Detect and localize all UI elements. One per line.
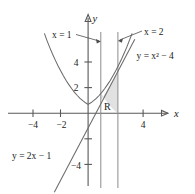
y-tick-label-4: 4: [74, 58, 79, 68]
x-tick-label--2: −2: [56, 120, 66, 130]
vline-right-label: x = 2: [144, 27, 164, 37]
region-label-R: R: [104, 101, 111, 112]
line-label: y = 2x − 1: [12, 151, 51, 161]
parabola-label: y = x² − 4: [137, 51, 175, 61]
leader-arrowhead-x1: [96, 39, 101, 43]
figure-canvas: x y −4 −2 4 4 2 −4 x = 1: [0, 0, 195, 194]
x-axis-label: x: [173, 108, 179, 119]
line-curve: [54, 39, 135, 192]
math-figure: x y −4 −2 4 4 2 −4 x = 1: [0, 0, 195, 194]
x-tick-label--4: −4: [28, 120, 38, 130]
vline-left-label: x = 1: [52, 30, 72, 40]
y-tick-label--4: −4: [71, 161, 81, 171]
y-axis-label: y: [92, 13, 98, 24]
x-tick-label-4: 4: [141, 120, 146, 130]
